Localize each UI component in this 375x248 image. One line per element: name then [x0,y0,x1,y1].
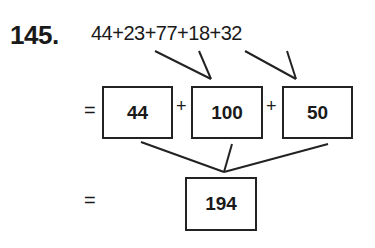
equals-sign-1: = [84,99,96,122]
plus-sign-1: + [176,96,187,117]
term-box-3: 50 [282,86,353,139]
term-box-2: 100 [191,86,263,139]
plus-sign-2: + [266,96,277,117]
term-box-1: 44 [102,86,173,139]
equals-sign-2: = [84,189,96,212]
result-box: 194 [185,177,257,231]
